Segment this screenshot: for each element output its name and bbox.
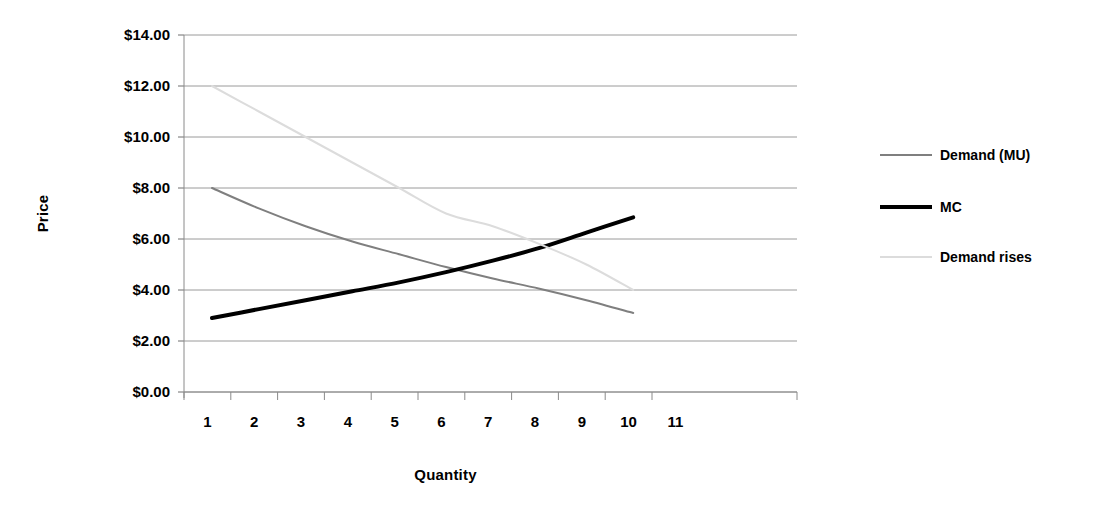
y-tick-label: $0.00 <box>132 383 170 400</box>
x-tick-label: 6 <box>437 413 445 430</box>
y-tick-label: $12.00 <box>124 77 170 94</box>
price-quantity-line-chart: $0.00$2.00$4.00$6.00$8.00$10.00$12.00$14… <box>0 0 1103 507</box>
series-line <box>212 217 633 318</box>
x-tick-label: 11 <box>667 413 683 430</box>
legend-label: Demand rises <box>940 249 1032 265</box>
series-line <box>212 188 633 313</box>
y-tick-label: $4.00 <box>132 281 170 298</box>
x-tick-labels: 1234567891011 <box>203 413 683 430</box>
series-lines <box>212 86 633 318</box>
chart-legend: Demand (MU)MCDemand rises <box>880 147 1032 265</box>
y-tick-label: $2.00 <box>132 332 170 349</box>
x-tick-label: 5 <box>390 413 398 430</box>
x-tick-label: 9 <box>578 413 586 430</box>
x-tick-label: 3 <box>297 413 305 430</box>
x-tick-label: 7 <box>484 413 492 430</box>
x-axis-title: Quantity <box>414 466 477 483</box>
legend-label: Demand (MU) <box>940 147 1030 163</box>
x-tick-label: 2 <box>250 413 258 430</box>
y-axis-title: Price <box>34 195 51 233</box>
x-tick-label: 10 <box>620 413 637 430</box>
y-tick-labels: $0.00$2.00$4.00$6.00$8.00$10.00$12.00$14… <box>124 26 170 400</box>
x-tick-label: 1 <box>203 413 211 430</box>
y-tick-label: $10.00 <box>124 128 170 145</box>
x-tick-label: 8 <box>531 413 539 430</box>
y-tick-label: $8.00 <box>132 179 170 196</box>
x-tick-marks <box>184 392 797 400</box>
legend-label: MC <box>940 199 962 215</box>
chart-container: $0.00$2.00$4.00$6.00$8.00$10.00$12.00$14… <box>0 0 1103 507</box>
y-tick-label: $6.00 <box>132 230 170 247</box>
x-tick-label: 4 <box>344 413 353 430</box>
y-tick-label: $14.00 <box>124 26 170 43</box>
